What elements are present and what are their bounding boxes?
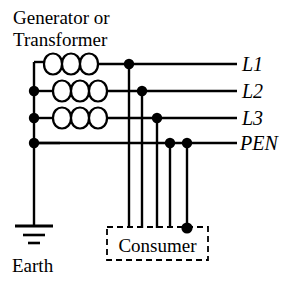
junction-dot-tap-l1 [124, 59, 134, 69]
tn-c-wiring-diagram: Generator or Transformer [0, 0, 294, 293]
wiring-schematic: Generator or Transformer [0, 0, 294, 293]
junction-dot-star-l2 [29, 86, 39, 96]
conductor-lines [34, 64, 237, 143]
conductor-label-l2: L2 [241, 80, 263, 102]
consumer-label: Consumer [118, 235, 197, 256]
winding-coil-l2 [53, 81, 107, 102]
junction-dot-star-l3 [29, 113, 39, 123]
conductor-label-l1: L1 [241, 53, 263, 75]
diagram-title-line1: Generator or [13, 7, 110, 28]
coil-l1-loops [44, 54, 98, 75]
winding-coil-l1 [44, 54, 98, 75]
earth-label: Earth [12, 255, 54, 276]
conductor-label-l3: L3 [241, 107, 263, 129]
junction-dot-consumer-pen [181, 222, 192, 233]
coil-l3-loops [53, 108, 107, 129]
junction-dot-tap-pen-earth [182, 138, 192, 148]
junction-dot-tap-l3 [152, 113, 162, 123]
earth-ground-symbol [15, 226, 53, 243]
winding-coil-l3 [53, 108, 107, 129]
junction-dot-tap-pen [165, 138, 175, 148]
conductor-label-pen: PEN [239, 132, 279, 154]
diagram-title-line2: Transformer [13, 29, 108, 50]
junction-dot-star-pen [29, 138, 39, 148]
junction-dot-tap-l2 [137, 86, 147, 96]
coil-l2-loops [53, 81, 107, 102]
